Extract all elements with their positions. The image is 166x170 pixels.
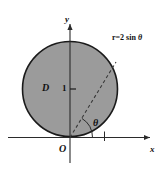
y-axis-label: y <box>65 15 69 24</box>
y-axis-arrowhead <box>67 24 72 30</box>
theta-angle-label: θ <box>93 118 98 128</box>
polar-diagram-figure: y x O D 1 θ r=2 sin θ <box>0 0 166 170</box>
curve-equation-theta: θ <box>138 33 142 42</box>
x-axis-label: x <box>150 145 155 154</box>
curve-equation-text: r=2 sin <box>112 33 138 42</box>
diagram-canvas <box>0 0 166 170</box>
origin-label: O <box>59 144 66 154</box>
y-tick-label-1: 1 <box>62 84 67 93</box>
curve-equation-label: r=2 sin θ <box>112 34 142 42</box>
region-label-d: D <box>42 83 49 93</box>
x-axis-arrowhead <box>144 135 150 140</box>
